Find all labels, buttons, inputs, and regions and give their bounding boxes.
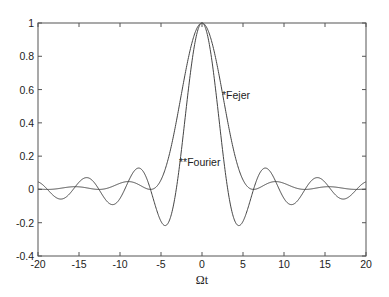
plot-area [38,23,366,256]
y-tick-label: -0.4 [16,250,34,262]
y-tick-label: 0.4 [19,117,34,129]
y-tick-label: 0.2 [19,150,34,162]
y-tick-label: -0.2 [16,217,34,229]
x-tick-label: 15 [319,258,331,270]
x-axis-label: Ωt [196,273,209,287]
x-tick-label: 0 [199,258,205,270]
x-tick-label: -5 [156,258,165,270]
x-tick-label: -10 [112,258,127,270]
chart: -20-15-10-505101520 -0.4-0.200.20.40.60.… [0,0,389,297]
x-tick-label: 10 [278,258,290,270]
y-tick-label: 0.8 [19,50,34,62]
y-tick-label: 0.6 [19,84,34,96]
x-tick-label: 5 [240,258,246,270]
y-tick-label: 1 [28,17,34,29]
annotation-fejer: *Fejer [222,89,251,101]
y-tick-label: 0 [28,183,34,195]
annotation-fourier: **Fourier [179,156,221,168]
x-tick-label: -15 [71,258,86,270]
x-tick-label: 20 [360,258,372,270]
